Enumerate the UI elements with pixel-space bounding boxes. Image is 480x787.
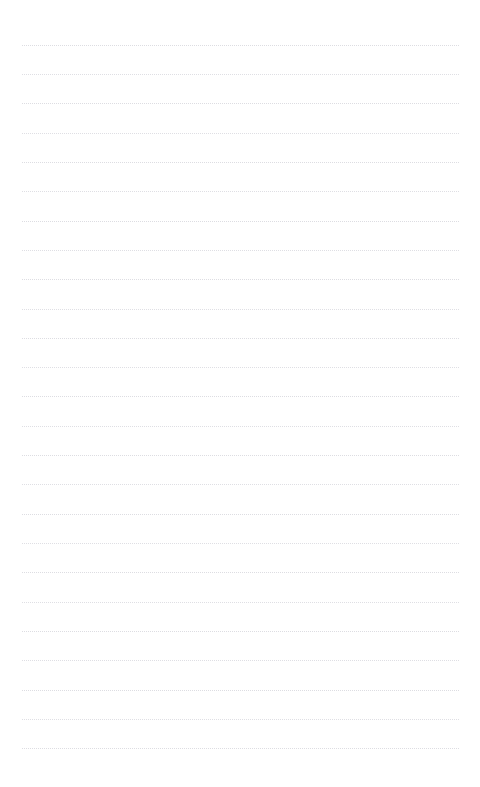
writing-line-slot[interactable] [22,284,459,309]
writing-line-slot[interactable] [22,430,459,455]
rule-line [22,74,459,75]
writing-line-slot[interactable] [22,78,459,103]
rule-line [22,367,459,368]
writing-line-slot[interactable] [22,371,459,396]
writing-line-slot[interactable] [22,665,459,690]
rule-line [22,543,459,544]
ruled-writing-area[interactable] [0,0,480,787]
writing-line-slot[interactable] [22,225,459,250]
rule-line [22,572,459,573]
writing-line-slot[interactable] [22,166,459,191]
rule-line [22,631,459,632]
rule-line [22,133,459,134]
rule-line [22,279,459,280]
rule-line [22,484,459,485]
rule-line [22,309,459,310]
writing-line-slot[interactable] [22,518,459,543]
rule-line [22,45,459,46]
rule-line [22,162,459,163]
rule-line [22,690,459,691]
writing-line-slot[interactable] [22,20,459,45]
writing-line-slot[interactable] [22,489,459,514]
writing-line-slot[interactable] [22,459,459,484]
writing-line-slot[interactable] [22,254,459,279]
writing-line-slot[interactable] [22,49,459,74]
rule-line [22,426,459,427]
writing-line-slot[interactable] [22,694,459,719]
writing-line-slot[interactable] [22,108,459,133]
writing-line-slot[interactable] [22,196,459,221]
writing-line-slot[interactable] [22,635,459,660]
rule-line [22,221,459,222]
rule-line [22,719,459,720]
rule-line [22,103,459,104]
rule-line [22,250,459,251]
writing-line-slot[interactable] [22,313,459,338]
writing-line-slot[interactable] [22,577,459,602]
rule-line [22,748,459,749]
writing-line-slot[interactable] [22,547,459,572]
rule-line [22,191,459,192]
rule-line [22,338,459,339]
writing-line-slot[interactable] [22,723,459,748]
rule-line [22,396,459,397]
writing-line-slot[interactable] [22,342,459,367]
rule-line [22,514,459,515]
rule-line [22,602,459,603]
rule-line [22,660,459,661]
writing-line-slot[interactable] [22,401,459,426]
rule-line [22,455,459,456]
lined-paper-page [0,0,480,787]
writing-line-slot[interactable] [22,137,459,162]
writing-line-slot[interactable] [22,606,459,631]
